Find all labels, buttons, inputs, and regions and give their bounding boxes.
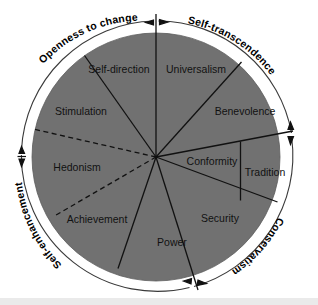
sector-label-stimulation: Stimulation (55, 105, 107, 117)
sector-label-tradition: Tradition (245, 166, 286, 178)
sector-label-universalism: Universalism (166, 63, 226, 75)
sector-label-benevolence: Benevolence (215, 105, 276, 117)
sector-label-hedonism: Hedonism (53, 161, 101, 173)
sector-label-achievement: Achievement (67, 213, 128, 225)
page-bottom-crop (0, 298, 318, 305)
sector-label-power: Power (157, 236, 187, 248)
sector-label-self-direction: Self-direction (88, 63, 149, 75)
sector-label-conformity: Conformity (187, 155, 239, 167)
values-circumplex-figure: Openness to change Self-transcendence Co… (0, 0, 318, 305)
sector-label-security: Security (201, 212, 240, 224)
values-circumplex-svg: Openness to change Self-transcendence Co… (0, 0, 318, 305)
